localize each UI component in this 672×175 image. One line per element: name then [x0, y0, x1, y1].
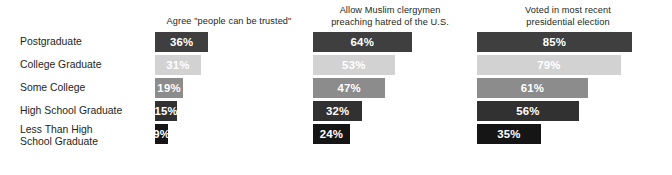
bar-value-label: 32%	[326, 105, 349, 117]
panel-headers: Agree "people can be trusted" Allow Musl…	[0, 0, 672, 32]
bar-track: 24%	[313, 124, 467, 144]
bar[interactable]: 36%	[155, 32, 208, 52]
bar-value-label: 53%	[342, 59, 365, 71]
panel-voted-recent-presidential-election: 85%79%61%56%35%	[477, 32, 659, 152]
bar-track: 85%	[477, 32, 659, 52]
bar[interactable]: 79%	[477, 55, 621, 75]
bar[interactable]: 32%	[313, 101, 362, 121]
bar-track: 31%	[155, 55, 303, 75]
bar[interactable]: 15%	[155, 101, 177, 121]
panel-header-2: Voted in most recent presidential electi…	[477, 5, 659, 28]
panel-header-1: Allow Muslim clergymen preaching hatred …	[313, 5, 467, 28]
chart-panels: 36%31%19%15%9% 64%53%47%32%24% 85%79%61%…	[0, 32, 672, 152]
bar[interactable]: 31%	[155, 55, 201, 75]
panel-header-line: Voted in most recent	[477, 5, 659, 17]
bar-value-label: 36%	[170, 36, 193, 48]
panel-header-line: preaching hatred of the U.S.	[313, 17, 467, 29]
bar[interactable]: 24%	[313, 124, 350, 144]
bar-track: 47%	[313, 78, 467, 98]
bar-track: 56%	[477, 101, 659, 121]
bar-track: 19%	[155, 78, 303, 98]
bar-value-label: 9%	[153, 128, 170, 140]
bar-value-label: 47%	[337, 82, 360, 94]
bar[interactable]: 35%	[477, 124, 541, 144]
bar-track: 15%	[155, 101, 303, 121]
bar-track: 61%	[477, 78, 659, 98]
panel-agree-people-can-be-trusted: 36%31%19%15%9%	[155, 32, 303, 152]
panel-header-0: Agree "people can be trusted"	[155, 16, 303, 28]
bar[interactable]: 9%	[155, 124, 168, 144]
bar[interactable]: 61%	[477, 78, 588, 98]
bar[interactable]: 53%	[313, 55, 395, 75]
bar[interactable]: 56%	[477, 101, 579, 121]
bar-value-label: 56%	[516, 105, 539, 117]
bar[interactable]: 64%	[313, 32, 412, 52]
bar-value-label: 15%	[154, 105, 177, 117]
panel-header-line: Allow Muslim clergymen	[313, 5, 467, 17]
bar-track: 32%	[313, 101, 467, 121]
bar-value-label: 79%	[537, 59, 560, 71]
bar-value-label: 85%	[543, 36, 566, 48]
education-trust-bar-chart: Agree "people can be trusted" Allow Musl…	[0, 0, 672, 175]
bar-value-label: 61%	[521, 82, 544, 94]
bar-value-label: 35%	[497, 128, 520, 140]
bar-value-label: 19%	[157, 82, 180, 94]
bar[interactable]: 85%	[477, 32, 632, 52]
panel-header-line: presidential election	[477, 17, 659, 29]
bar-value-label: 24%	[320, 128, 343, 140]
bar[interactable]: 47%	[313, 78, 385, 98]
bar-track: 53%	[313, 55, 467, 75]
bar-track: 79%	[477, 55, 659, 75]
bar-track: 64%	[313, 32, 467, 52]
panel-allow-muslim-clergymen: 64%53%47%32%24%	[313, 32, 467, 152]
bar-track: 9%	[155, 124, 303, 144]
bar-value-label: 31%	[166, 59, 189, 71]
bar[interactable]: 19%	[155, 78, 183, 98]
panel-header-line: Agree "people can be trusted"	[155, 16, 303, 28]
bar-value-label: 64%	[351, 36, 374, 48]
bar-track: 35%	[477, 124, 659, 144]
bar-track: 36%	[155, 32, 303, 52]
